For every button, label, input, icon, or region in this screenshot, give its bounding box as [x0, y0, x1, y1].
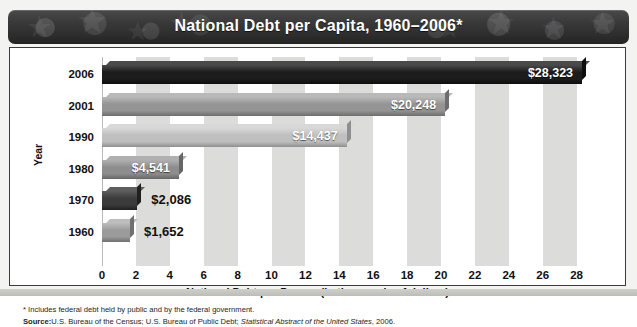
y-axis-label-1960: 1960 — [34, 226, 94, 238]
x-tick-24: 24 — [502, 269, 515, 281]
x-tick-16: 16 — [367, 269, 380, 281]
bar-row: $4,541 — [102, 160, 602, 183]
bar-row: $2,086 — [102, 191, 602, 214]
chart-panel: Year 2006$28,3232001$20,2481990$14,43719… — [9, 47, 626, 286]
bar-side-3d — [179, 152, 183, 175]
bar-value-label: $4,541 — [132, 161, 170, 175]
source-label: Source: — [23, 317, 51, 326]
bar-side-3d — [582, 57, 586, 80]
y-axis-label-1980: 1980 — [34, 163, 94, 175]
x-tick-18: 18 — [401, 269, 414, 281]
footnote-source: Source:U.S. Bureau of the Census; U.S. B… — [23, 316, 615, 327]
x-tick-26: 26 — [536, 269, 549, 281]
x-tick-2: 2 — [133, 269, 139, 281]
x-tick-6: 6 — [200, 269, 206, 281]
x-tick-20: 20 — [435, 269, 448, 281]
bar-top-3d — [106, 156, 187, 160]
bar-1970 — [102, 191, 137, 210]
bar-row: $20,248 — [102, 97, 602, 120]
source-text-2: , 2006. — [372, 317, 395, 326]
bar-value-label: $1,652 — [144, 224, 184, 239]
x-tick-0: 0 — [99, 269, 105, 281]
x-tick-4: 4 — [167, 269, 173, 281]
y-axis-label-2001: 2001 — [34, 100, 94, 112]
bar-1980: $4,541 — [102, 160, 179, 179]
footnote-asterisk: * Includes federal debt held by public a… — [23, 304, 615, 315]
bar-value-label: $28,323 — [528, 66, 573, 80]
bar-1960 — [102, 223, 130, 242]
x-tick-8: 8 — [234, 269, 240, 281]
bar-top-3d — [106, 93, 453, 97]
y-axis-label-1990: 1990 — [34, 131, 94, 143]
y-axis-label-1970: 1970 — [34, 194, 94, 206]
x-tick-28: 28 — [570, 269, 583, 281]
x-tick-10: 10 — [265, 269, 278, 281]
bar-top-3d — [106, 124, 355, 128]
source-italic-title: Statistical Abstract of the United State… — [241, 317, 372, 326]
page-bottom-edge — [0, 289, 637, 296]
bar-value-label: $20,248 — [391, 98, 436, 112]
bar-2001: $20,248 — [102, 97, 445, 116]
bar-top-3d — [106, 61, 590, 65]
title-banner: ★ ★ ★ ★ ★ ★ ★ ★ National Debt per Capita… — [8, 10, 629, 44]
bar-side-3d — [347, 120, 351, 143]
source-text-1: U.S. Bureau of the Census; U.S. Bureau o… — [51, 317, 241, 326]
x-tick-14: 14 — [333, 269, 346, 281]
bar-face — [102, 191, 137, 210]
bar-face — [102, 223, 130, 242]
bar-side-3d — [137, 183, 141, 206]
bar-side-3d — [130, 215, 134, 238]
y-axis-label-2006: 2006 — [34, 68, 94, 80]
x-tick-22: 22 — [468, 269, 481, 281]
bar-2006: $28,323 — [102, 65, 582, 84]
bar-1990: $14,437 — [102, 128, 347, 147]
bar-value-label: $2,086 — [151, 192, 191, 207]
chart-title: National Debt per Capita, 1960–2006* — [8, 17, 629, 35]
bar-side-3d — [445, 89, 449, 112]
bar-row: $1,652 — [102, 223, 602, 246]
bar-row: $14,437 — [102, 128, 602, 151]
bar-value-label: $14,437 — [293, 129, 338, 143]
bar-row: $28,323 — [102, 65, 602, 88]
x-tick-12: 12 — [299, 269, 312, 281]
bar-face — [102, 65, 582, 84]
